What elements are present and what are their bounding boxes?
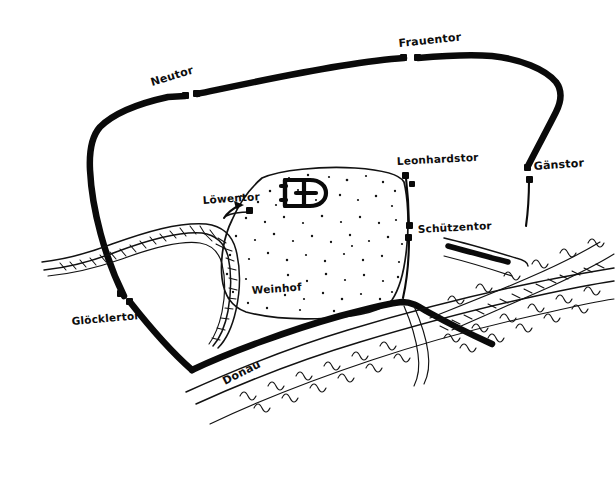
gate-marker-frauentor-b [414, 54, 421, 61]
danube-south-bank [210, 299, 614, 424]
minster-building-icon [281, 180, 326, 206]
label-gaenstor: Gänstor [533, 156, 585, 173]
east-riverside-wall [444, 238, 528, 276]
label-schuetzentor: Schützentor [417, 219, 492, 235]
wall-south-river-segment [192, 302, 492, 370]
gate-markers [117, 54, 533, 305]
hand-drawn-city-map: Neutor Frauentor Gänstor Leonhardstor Sc… [0, 0, 615, 490]
gate-marker-gloecklertor-b [126, 298, 133, 305]
danube-tributary-2 [404, 306, 419, 386]
label-frauentor: Frauentor [398, 30, 462, 50]
label-donau: Donau [220, 358, 262, 388]
moat-bank-inner2 [48, 242, 225, 344]
danube-far-bank-2 [452, 254, 614, 330]
wall-neutor-to-frauentor [197, 58, 404, 94]
gate-marker-schuetzentor [406, 222, 413, 229]
wall-south-west-segment [130, 302, 192, 370]
riverside-wall-outline [444, 238, 528, 266]
wall-thin-gaenstor-down [526, 180, 529, 226]
gate-marker-frauentor [400, 54, 407, 61]
label-leonhardstor: Leonhardstor [396, 151, 479, 167]
gate-marker-neutor-b [193, 90, 200, 97]
wall-north-west-segment [90, 96, 185, 296]
gate-marker-gaenstor-b [526, 176, 533, 183]
gate-marker-loewentor [246, 207, 253, 214]
gate-marker-gaenstor [524, 164, 531, 171]
danube-river [186, 239, 614, 424]
gate-marker-schuetzentor-b [405, 234, 412, 241]
label-neutor: Neutor [149, 63, 195, 88]
gate-marker-leonhardstor-b [409, 181, 415, 187]
gate-marker-gloecklertor [117, 290, 124, 297]
gate-marker-leonhardstor [402, 172, 409, 179]
gate-marker-neutor [182, 92, 189, 99]
label-loewentor: Löwentor [202, 190, 261, 206]
map-labels: Neutor Frauentor Gänstor Leonhardstor Sc… [71, 30, 585, 387]
moat-stream [42, 224, 239, 348]
label-weinhof: Weinhof [251, 281, 302, 296]
city-wall-thick [90, 55, 561, 370]
label-gloecklertor: Glöcklertor [71, 309, 141, 327]
wall-frauentor-to-corner [418, 55, 561, 166]
moat-bank-inner [44, 233, 231, 346]
map-canvas: Neutor Frauentor Gänstor Leonhardstor Sc… [0, 0, 615, 490]
